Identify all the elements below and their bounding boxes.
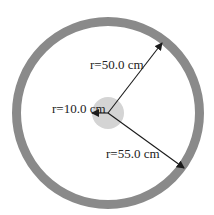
label-r55: r=55.0 cm: [106, 146, 160, 161]
label-r10: r=10.0 cm: [52, 101, 106, 116]
arrow-r50: [108, 43, 162, 113]
label-r50: r=50.0 cm: [90, 57, 144, 72]
concentric-circles-diagram: r=50.0 cm r=10.0 cm r=55.0 cm: [0, 0, 214, 215]
